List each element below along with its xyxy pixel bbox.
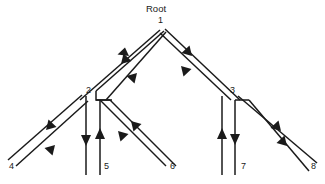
edge-2-to-6-outer bbox=[100, 100, 166, 166]
node-label-1: 1 bbox=[158, 16, 163, 25]
node-label-4: 4 bbox=[9, 162, 14, 171]
edge-root-to-2-outer bbox=[80, 30, 160, 100]
arrowhead-4-to-2 bbox=[45, 145, 56, 156]
arrowhead-3-to-7 bbox=[230, 134, 240, 145]
node-label-8: 8 bbox=[311, 162, 316, 171]
node-label-7: 7 bbox=[241, 162, 246, 171]
node-label-5: 5 bbox=[104, 162, 109, 171]
edge-2-to-root-inner bbox=[106, 32, 166, 100]
tree-traversal-diagram: Root 1 2 3 4 5 6 7 8 bbox=[0, 0, 325, 184]
edge-3-to-root-inner bbox=[160, 33, 231, 100]
root-label: Root bbox=[146, 4, 166, 14]
arrowhead-5-to-2 bbox=[95, 128, 105, 139]
edge-2-to-4-outer bbox=[8, 95, 82, 160]
arrowhead-2-to-5 bbox=[81, 135, 91, 146]
edge-8-to-3-inner bbox=[249, 100, 309, 171]
arrowhead-7-to-3 bbox=[217, 128, 227, 139]
arrowhead-3-to-1 bbox=[181, 66, 192, 77]
node-label-6: 6 bbox=[170, 162, 175, 171]
node-label-3: 3 bbox=[230, 86, 235, 95]
node-label-2: 2 bbox=[86, 86, 91, 95]
arrowhead-6-to-2-b bbox=[118, 131, 129, 142]
edge-4-to-2-inner bbox=[16, 101, 88, 166]
edge-root-to-3-outer bbox=[165, 29, 240, 100]
diagram-canvas bbox=[0, 0, 325, 184]
